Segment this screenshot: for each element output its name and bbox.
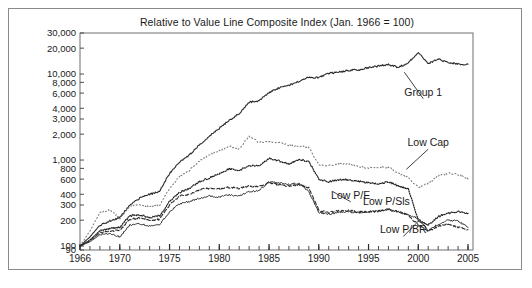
figure-container: Relative to Value Line Composite Index (… bbox=[0, 0, 532, 288]
y-axis-tick-label: 300 bbox=[60, 199, 76, 210]
x-axis-tick-label: 1985 bbox=[258, 253, 281, 264]
x-axis-tick-label: 1966 bbox=[69, 253, 92, 264]
x-axis-tick-label: 2000 bbox=[407, 253, 430, 264]
x-axis-tick-label: 1975 bbox=[158, 253, 181, 264]
series-label-low-p-br: Low P/BR bbox=[380, 223, 427, 235]
series-label-low-p-sls: Low P/Sls bbox=[363, 195, 410, 207]
y-axis-tick-label: 10,000 bbox=[47, 68, 76, 79]
x-axis-tick-label: 1995 bbox=[357, 253, 380, 264]
y-axis-tick-label: 30,000 bbox=[47, 27, 76, 38]
series-label-low-cap: Low Cap bbox=[408, 136, 450, 148]
caption-faint-text bbox=[10, 276, 522, 285]
series-label-group-1: Group 1 bbox=[404, 86, 442, 98]
y-axis-tick-label: 3,000 bbox=[52, 113, 76, 124]
series-line-low-p-e bbox=[80, 182, 468, 247]
y-axis-tick-label: 1,000 bbox=[52, 154, 76, 165]
leader-line-low-cap bbox=[406, 149, 428, 169]
y-axis-tick-label: 100 bbox=[60, 240, 76, 251]
y-axis-tick-label: 2,000 bbox=[52, 129, 76, 140]
line-chart-plot: 901002003004006008001,0002,0003,0004,000… bbox=[0, 0, 532, 288]
y-axis-tick-label: 20,000 bbox=[47, 43, 76, 54]
y-axis-tick-label: 200 bbox=[60, 215, 76, 226]
y-axis-tick-label: 6,000 bbox=[52, 88, 76, 99]
x-axis-tick-label: 1990 bbox=[308, 253, 331, 264]
x-axis-tick-label: 1980 bbox=[208, 253, 231, 264]
x-axis-tick-label: 2005 bbox=[457, 253, 480, 264]
y-axis-tick-label: 400 bbox=[60, 189, 76, 200]
x-axis-tick-label: 1970 bbox=[109, 253, 132, 264]
y-axis-tick-label: 4,000 bbox=[52, 103, 76, 114]
y-axis-tick-label: 600 bbox=[60, 174, 76, 185]
